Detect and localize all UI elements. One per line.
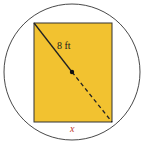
center-point [70, 70, 74, 74]
width-label: x [69, 123, 75, 134]
inscribed-rectangle-diagram: 8 ft x [0, 0, 143, 143]
diagonal-label: 8 ft [57, 40, 71, 51]
